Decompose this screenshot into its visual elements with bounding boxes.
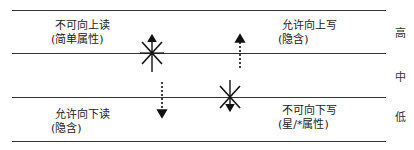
blocked-write-down-arrow-icon xyxy=(220,80,240,108)
blocked-read-up-arrow-icon xyxy=(140,38,164,72)
arrows-layer xyxy=(0,0,414,150)
